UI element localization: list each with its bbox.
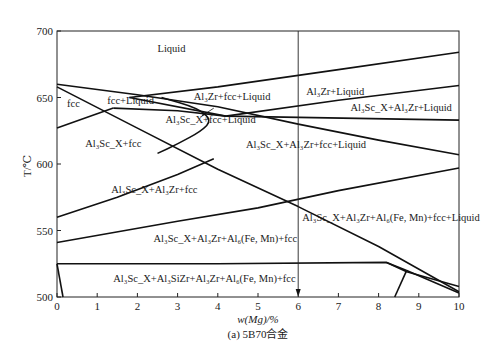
x-tick-label: 7 — [336, 300, 342, 312]
y-tick-label: 700 — [37, 25, 54, 37]
figure-caption: (a) 5B70合金 — [228, 327, 289, 341]
phase-boundaries — [57, 52, 459, 297]
x-tick-label: 4 — [215, 300, 221, 312]
y-tick-label: 550 — [37, 225, 54, 237]
y-tick-label: 600 — [37, 158, 54, 170]
y-tick-label: 500 — [37, 291, 54, 303]
x-tick-label: 0 — [54, 300, 60, 312]
region-label: Al₃Sc_X+Al₃SiZr+Al₃Zr+Al₆(Fe, Mn)+fcc — [113, 273, 296, 285]
y-tick-label: 650 — [37, 92, 54, 104]
x-tick-label: 9 — [416, 300, 422, 312]
region-label: Al₃Sc_X+Al₃Zr+fcc+Liquid — [246, 139, 367, 150]
x-tick-label: 6 — [295, 300, 301, 312]
boundary-liquidus-al3zr — [129, 52, 459, 97]
region-label: Al₃Zr+Liquid — [306, 86, 365, 97]
region-label: Al₃Sc_X+Al₃Zr+Al₆(Fe, Mn)+fcc+Liquid — [302, 212, 480, 224]
x-tick-label: 5 — [255, 300, 261, 312]
region-label: Al₃Sc_X+Al₃Zr+Liquid — [350, 102, 452, 113]
region-label: Liquid — [158, 43, 187, 54]
boundary-mg-solvus-right — [395, 270, 407, 297]
region-label: Al₃Sc_X+fcc — [85, 138, 142, 149]
boundary-fcc-solvus — [57, 108, 113, 128]
phase-diagram-chart: Liquidfccfcc+LiquidAl₃Zr+fcc+LiquidAl₃Zr… — [0, 0, 488, 355]
boundary-al3sizr-solvus — [57, 262, 407, 270]
region-label: Al₃Sc_X+fcc+Liquid — [166, 114, 257, 125]
x-tick-label: 8 — [376, 300, 382, 312]
x-tick-label: 3 — [175, 300, 181, 312]
boundary-al3sc-lens — [158, 98, 209, 154]
composition-marker — [296, 31, 301, 297]
x-tick-label: 10 — [454, 300, 466, 312]
region-label: Al₃Sc_X+Al₃Zr+fcc — [111, 184, 198, 195]
x-tick-label: 2 — [135, 300, 141, 312]
x-tick-label: 1 — [94, 300, 100, 312]
y-axis-title: T/℃ — [21, 155, 33, 177]
boundary-al6-solvus — [57, 168, 459, 243]
region-label: Al₃Zr+fcc+Liquid — [194, 91, 271, 102]
region-label: Al₃Sc_X+Al₃Zr+Al₆(Fe, Mn)+fcc — [153, 233, 297, 245]
region-label: fcc+Liquid — [107, 95, 154, 106]
boundary-mg-solvus-left — [57, 264, 63, 297]
boundary-solidus-lower — [407, 270, 459, 293]
x-axis-title: w(Mg)/% — [237, 313, 279, 326]
region-label: fcc — [67, 98, 80, 109]
